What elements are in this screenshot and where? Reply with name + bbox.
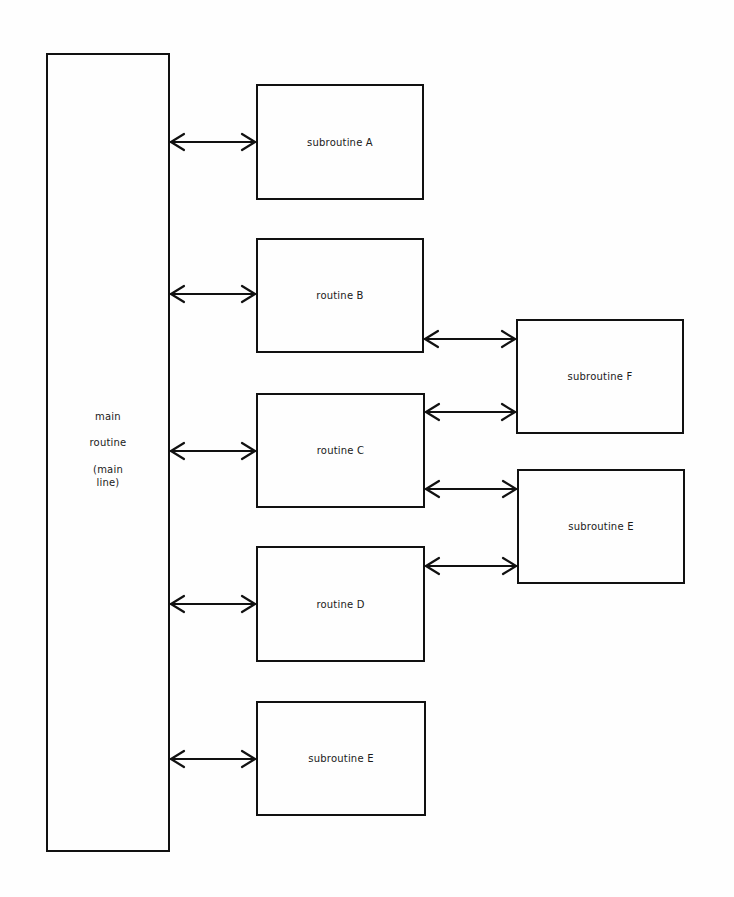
double-arrow-icon xyxy=(171,596,255,612)
double-arrow-icon xyxy=(426,481,516,497)
double-arrow-icon xyxy=(426,404,515,420)
double-arrow-icon xyxy=(425,331,515,347)
double-arrow-icon xyxy=(171,443,255,459)
double-arrow-icon xyxy=(171,286,255,302)
double-arrow-icon xyxy=(171,134,255,150)
connection-arrows xyxy=(0,0,734,897)
double-arrow-icon xyxy=(426,558,516,574)
double-arrow-icon xyxy=(171,751,255,767)
diagram-canvas: main routine (main line) subroutine A ro… xyxy=(0,0,734,897)
